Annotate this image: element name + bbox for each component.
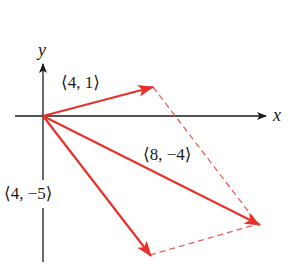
vector-label-4-1: ⟨4, 1⟩	[61, 73, 100, 92]
vector-8-neg4	[43, 116, 260, 225]
y-axis-label: y	[36, 40, 46, 60]
vector-diagram: x y ⟨4, 1⟩ ⟨8, −4⟩ ⟨4, −5⟩	[0, 0, 299, 278]
dashed-edge-lower	[150, 224, 258, 255]
vector-label-8-neg4: ⟨8, −4⟩	[143, 145, 191, 164]
vector-label-4-neg5: ⟨4, −5⟩	[4, 184, 52, 203]
x-axis-label: x	[272, 105, 281, 125]
